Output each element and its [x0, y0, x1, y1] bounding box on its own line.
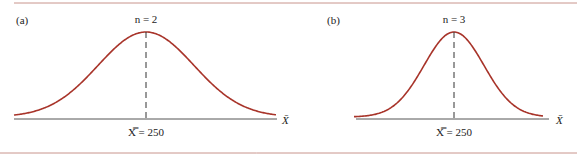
panel-a: (a) n = 2 X̄ X̿ = 250 — [14, 13, 290, 138]
panel-b-n-label: n = 3 — [443, 13, 466, 25]
panel-a-axis-label: X̄ — [281, 114, 290, 126]
panel-b-axis-label: X̄ — [555, 114, 564, 126]
panel-b-label: (b) — [327, 14, 340, 27]
figure: (a) n = 2 X̄ X̿ = 250 (b) n = 3 X̄ X̿ = … — [0, 0, 577, 161]
panel-b-mean-label: X̿ = 250 — [436, 126, 473, 138]
panel-b: (b) n = 3 X̄ X̿ = 250 — [327, 13, 564, 138]
panel-a-label: (a) — [16, 14, 29, 27]
panel-a-mean-label: X̿ = 250 — [128, 126, 165, 138]
panel-a-curve — [14, 32, 276, 115]
panel-a-n-label: n = 2 — [135, 13, 158, 25]
panel-b-curve — [354, 32, 543, 117]
